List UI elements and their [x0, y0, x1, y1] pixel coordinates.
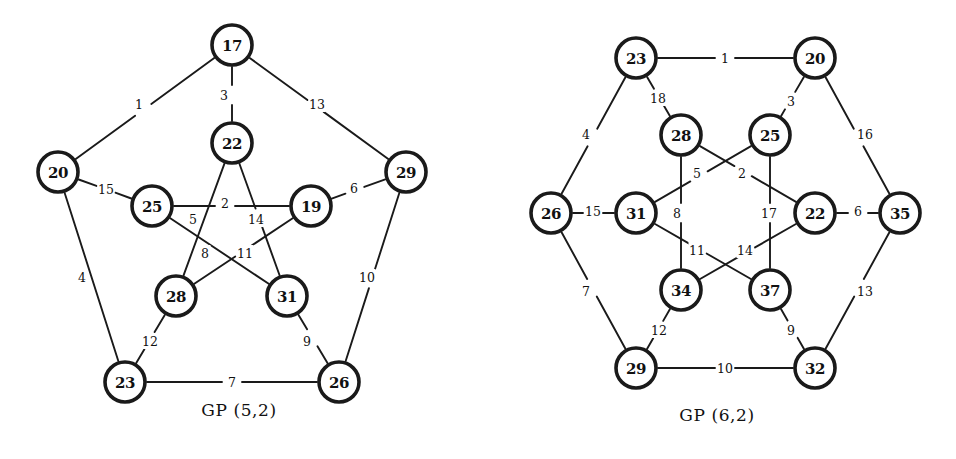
graph-edge-13-b: [324, 112, 389, 159]
graph-node-31[interactable]: 31: [616, 193, 656, 233]
edge-label-3: 3: [787, 94, 795, 109]
graph-node-17[interactable]: 17: [212, 25, 252, 65]
graph-node-29[interactable]: 29: [616, 348, 656, 388]
node-label-20: 20: [805, 50, 825, 68]
graph-edge-9: [317, 346, 327, 363]
graph-edge-15: [79, 179, 97, 185]
graph-edge-14: [755, 224, 796, 247]
node-label-28: 28: [671, 127, 691, 145]
graph-edge-2: [700, 146, 734, 166]
edge-label-15: 15: [585, 204, 601, 219]
edge-label-18: 18: [650, 91, 666, 106]
graph-edge-13: [250, 58, 308, 100]
graph-node-26[interactable]: 26: [319, 362, 359, 402]
graph-edge-18-b: [664, 106, 670, 116]
graph-edge-11: [655, 224, 689, 244]
edge-label-1: 1: [135, 97, 143, 112]
edge-label-7: 7: [228, 375, 236, 390]
graph-node-31[interactable]: 31: [267, 276, 307, 316]
node-label-23: 23: [115, 374, 135, 392]
edge-label-6: 6: [854, 204, 862, 219]
graph-edge-13: [864, 232, 890, 279]
graph-node-28[interactable]: 28: [661, 115, 701, 155]
edge-label-13: 13: [309, 97, 325, 112]
edge-label-3: 3: [220, 88, 228, 103]
graph-node-25[interactable]: 25: [132, 186, 172, 226]
node-label-32: 32: [805, 360, 825, 378]
node-label-28: 28: [166, 288, 186, 306]
graph-edge-6-b: [332, 194, 346, 199]
graph-edge-5-b: [655, 181, 690, 202]
edge-label-14: 14: [737, 243, 753, 258]
graph-node-35[interactable]: 35: [880, 193, 920, 233]
graph-node-23[interactable]: 23: [105, 362, 145, 402]
edge-label-8: 8: [201, 246, 209, 261]
graph-node-20[interactable]: 20: [795, 38, 835, 78]
graph-edge-7-b: [597, 296, 626, 348]
edge-label-12: 12: [651, 323, 667, 338]
node-label-20: 20: [48, 164, 68, 182]
graph-edge-4: [597, 77, 625, 128]
graph-node-34[interactable]: 34: [661, 270, 701, 310]
graph-edge-4: [65, 193, 119, 361]
graph-edge-4-b: [562, 146, 588, 193]
graph-edge-6: [364, 179, 385, 187]
graph-panel-gp62: 2320263529322825312234371184316157613121…: [478, 0, 956, 459]
node-label-35: 35: [890, 205, 910, 223]
graph-node-28[interactable]: 28: [156, 276, 196, 316]
graph-node-32[interactable]: 32: [795, 348, 835, 388]
node-label-26: 26: [329, 374, 349, 392]
graph-edge-1-b: [76, 116, 135, 159]
graph-edge-12-b: [663, 309, 670, 321]
graph-edge-18: [647, 77, 654, 89]
node-label-37: 37: [760, 282, 780, 300]
edge-label-4: 4: [78, 270, 86, 285]
graph-edge-12: [136, 349, 144, 363]
node-label-29: 29: [396, 164, 416, 182]
graph-node-23[interactable]: 23: [616, 38, 656, 78]
graph-node-19[interactable]: 19: [291, 186, 331, 226]
panel-caption-gp62: GP (6,2): [478, 405, 956, 425]
edge-label-9: 9: [787, 323, 795, 338]
graph-edge-10: [375, 193, 399, 269]
edge-label-9: 9: [303, 334, 311, 349]
node-label-22: 22: [222, 135, 242, 153]
graph-edge-13-b: [826, 296, 855, 348]
graph-node-25[interactable]: 25: [750, 115, 790, 155]
graph-edge-14: [239, 164, 255, 209]
edge-label-6: 6: [350, 181, 358, 196]
graph-edge-14-b: [262, 227, 279, 275]
edge-label-15: 15: [98, 182, 114, 197]
figure-root: 1720292326222519283113131546101279251481…: [0, 0, 956, 459]
node-label-31: 31: [626, 205, 646, 223]
edge-label-11: 11: [689, 243, 705, 258]
graph-node-37[interactable]: 37: [750, 270, 790, 310]
graph-node-26[interactable]: 26: [531, 193, 571, 233]
graph-edge-3: [795, 77, 804, 92]
edge-label-12: 12: [142, 334, 158, 349]
graph-edge-16: [826, 77, 854, 128]
node-label-29: 29: [626, 360, 646, 378]
edge-label-11: 11: [237, 246, 253, 261]
graph-node-29[interactable]: 29: [386, 152, 426, 192]
edge-label-5: 5: [693, 166, 701, 181]
edge-layer: [562, 58, 890, 368]
graph-edge-9-b: [781, 309, 788, 320]
graph-node-22[interactable]: 22: [795, 193, 835, 233]
edge-label-8: 8: [673, 206, 681, 221]
graph-node-22[interactable]: 22: [212, 123, 252, 163]
graph-canvas-gp62: 2320263529322825312234371184316157613121…: [478, 0, 956, 459]
edge-label-1: 1: [721, 51, 729, 66]
node-label-19: 19: [301, 198, 321, 216]
graph-edge-9: [798, 338, 804, 349]
node-label-22: 22: [805, 205, 825, 223]
edge-label-10: 10: [717, 361, 733, 376]
graph-edge-15-b: [115, 193, 131, 199]
node-label-26: 26: [541, 205, 561, 223]
graph-node-20[interactable]: 20: [38, 152, 78, 192]
node-label-25: 25: [142, 198, 162, 216]
edge-label-16: 16: [857, 127, 873, 142]
graph-edge-10-b: [346, 288, 369, 361]
graph-edge-12-b: [155, 315, 165, 332]
graph-panel-gp52: 1720292326222519283113131546101279251481…: [0, 0, 478, 459]
